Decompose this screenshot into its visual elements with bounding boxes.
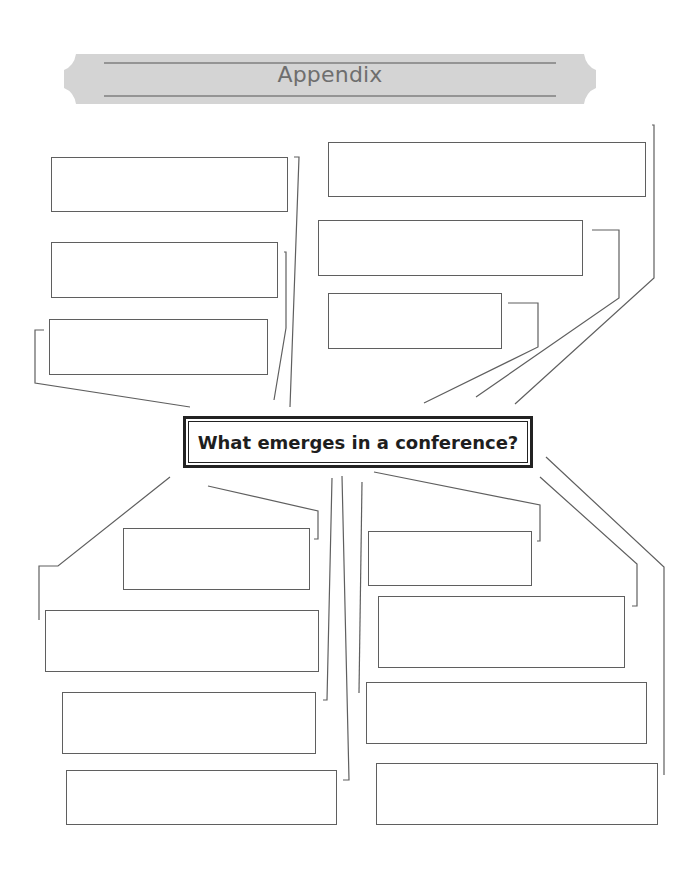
answer-box-bottom-right-3[interactable]	[366, 682, 647, 744]
answer-box-bottom-right-2[interactable]	[378, 596, 625, 668]
answer-box-top-left-3[interactable]	[49, 319, 268, 375]
central-question-box: What emerges in a conference?	[183, 416, 533, 468]
answer-box-bottom-left-1[interactable]	[123, 528, 310, 590]
answer-box-top-left-2[interactable]	[51, 242, 278, 298]
central-question: What emerges in a conference?	[198, 432, 519, 453]
answer-box-bottom-left-3[interactable]	[62, 692, 316, 754]
answer-box-bottom-left-2[interactable]	[45, 610, 319, 672]
answer-box-top-left-1[interactable]	[51, 157, 288, 212]
answer-box-bottom-left-4[interactable]	[66, 770, 337, 825]
answer-box-top-right-1[interactable]	[328, 142, 646, 197]
answer-box-bottom-right-1[interactable]	[368, 531, 532, 586]
answer-box-bottom-right-4[interactable]	[376, 763, 658, 825]
central-question-inner: What emerges in a conference?	[188, 421, 528, 463]
answer-box-top-right-2[interactable]	[318, 220, 583, 276]
answer-box-top-right-3[interactable]	[328, 293, 502, 349]
